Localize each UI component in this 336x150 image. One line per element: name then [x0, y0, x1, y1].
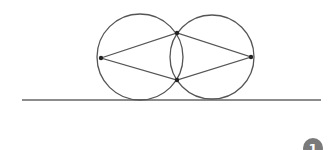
step-badge: 1	[303, 138, 323, 150]
right-point-dot	[249, 55, 253, 59]
top-intersection-dot	[175, 31, 179, 35]
rhombus-shape	[101, 33, 251, 80]
left-point-dot	[99, 56, 103, 60]
badge-label: 1	[308, 141, 317, 150]
geometry-diagram: 1	[0, 0, 336, 150]
points-group	[99, 31, 253, 82]
bottom-intersection-dot	[175, 78, 179, 82]
